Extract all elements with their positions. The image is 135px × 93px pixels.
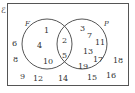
element-4: 4	[37, 42, 42, 50]
element-14: 14	[58, 75, 68, 83]
set-f-label: F	[25, 20, 30, 28]
element-9: 9	[20, 73, 25, 81]
element-5: 5	[62, 52, 67, 60]
element-11: 11	[95, 39, 105, 47]
element-12: 12	[33, 75, 43, 83]
element-16: 16	[106, 72, 116, 80]
element-8: 8	[13, 56, 18, 64]
element-6: 6	[12, 40, 17, 48]
element-10: 10	[43, 58, 53, 66]
element-18: 18	[113, 57, 123, 65]
element-7: 7	[87, 32, 92, 40]
element-3: 3	[80, 25, 85, 33]
element-2: 2	[62, 37, 67, 45]
element-19: 19	[78, 63, 88, 71]
element-17: 17	[93, 56, 103, 64]
element-1: 1	[44, 27, 49, 35]
element-13: 13	[83, 48, 93, 56]
element-15: 15	[87, 74, 97, 82]
set-p-label: P	[104, 20, 109, 28]
